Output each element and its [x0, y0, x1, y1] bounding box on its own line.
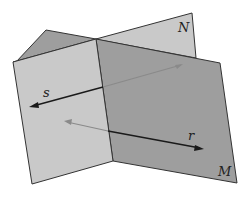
intersecting-planes-diagram: N M s r — [0, 0, 251, 197]
label-m: M — [217, 164, 232, 179]
label-n: N — [177, 20, 190, 35]
plane-n-left-face — [13, 39, 113, 184]
label-s: s — [43, 85, 50, 100]
plane-m-right-face — [96, 39, 237, 183]
label-r: r — [188, 128, 195, 143]
